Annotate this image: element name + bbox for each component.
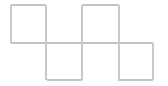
matchstick-canvas [0, 0, 168, 86]
matchstick-figure [0, 0, 168, 86]
